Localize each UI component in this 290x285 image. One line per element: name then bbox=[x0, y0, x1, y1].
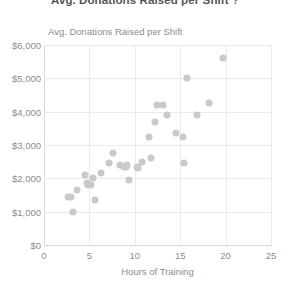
scatter-point[interactable] bbox=[126, 177, 133, 184]
y-axis-tick-label: $1,000 bbox=[0, 206, 41, 217]
x-axis-tick-label: 15 bbox=[175, 250, 186, 261]
scatter-point[interactable] bbox=[98, 170, 105, 177]
gridline-vertical bbox=[271, 45, 272, 245]
scatter-point[interactable] bbox=[106, 160, 113, 167]
chart-container: Avg. Donations Raised per Shift ? Avg. D… bbox=[0, 0, 290, 285]
x-axis-tick-label: 20 bbox=[220, 250, 231, 261]
x-axis-label: Hours of Training bbox=[44, 266, 271, 277]
gridline-horizontal bbox=[44, 112, 271, 113]
scatter-point[interactable] bbox=[88, 182, 95, 189]
y-axis-tick-label: $0 bbox=[0, 240, 41, 251]
x-axis-tick-label: 0 bbox=[41, 250, 46, 261]
plot-area bbox=[44, 45, 271, 245]
y-axis-tick-label: $4,000 bbox=[0, 106, 41, 117]
gridline-horizontal bbox=[44, 145, 271, 146]
scatter-point[interactable] bbox=[68, 193, 75, 200]
scatter-point[interactable] bbox=[123, 162, 130, 169]
scatter-point[interactable] bbox=[73, 187, 80, 194]
y-axis-tick-label: $5,000 bbox=[0, 73, 41, 84]
scatter-point[interactable] bbox=[148, 155, 155, 162]
gridline-vertical bbox=[226, 45, 227, 245]
x-axis-tick-label: 25 bbox=[266, 250, 277, 261]
scatter-point[interactable] bbox=[179, 133, 186, 140]
scatter-point[interactable] bbox=[193, 112, 200, 119]
scatter-point[interactable] bbox=[151, 118, 158, 125]
gridline-horizontal bbox=[44, 212, 271, 213]
scatter-point[interactable] bbox=[219, 55, 226, 62]
y-axis-tick-label: $6,000 bbox=[0, 40, 41, 51]
scatter-point[interactable] bbox=[164, 112, 171, 119]
scatter-point[interactable] bbox=[81, 172, 88, 179]
scatter-point[interactable] bbox=[91, 197, 98, 204]
y-axis-tick-label: $2,000 bbox=[0, 173, 41, 184]
scatter-point[interactable] bbox=[172, 130, 179, 137]
gridline-vertical bbox=[89, 45, 90, 245]
y-axis-tick-label: $3,000 bbox=[0, 140, 41, 151]
gridline-vertical bbox=[180, 45, 181, 245]
scatter-point[interactable] bbox=[180, 160, 187, 167]
scatter-point[interactable] bbox=[146, 133, 153, 140]
scatter-point[interactable] bbox=[90, 175, 97, 182]
scatter-point[interactable] bbox=[139, 158, 146, 165]
gridline-horizontal bbox=[44, 78, 271, 79]
scatter-point[interactable] bbox=[70, 208, 77, 215]
x-axis-line bbox=[44, 245, 272, 246]
scatter-point[interactable] bbox=[159, 102, 166, 109]
scatter-point[interactable] bbox=[206, 100, 213, 107]
y-axis-tick-labels: $0$1,000$2,000$3,000$4,000$5,000$6,000 bbox=[0, 0, 41, 285]
gridline-horizontal bbox=[44, 178, 271, 179]
x-axis-tick-label: 5 bbox=[87, 250, 92, 261]
page-title: Avg. Donations Raised per Shift ? bbox=[0, 0, 290, 6]
scatter-point[interactable] bbox=[135, 165, 142, 172]
gridline-horizontal bbox=[44, 45, 271, 46]
x-axis-tick-label: 10 bbox=[130, 250, 141, 261]
y-axis-inline-label: Avg. Donations Raised per Shift bbox=[48, 26, 182, 37]
chart-title-text: Avg. Donations Raised per Shift bbox=[51, 0, 229, 6]
gridline-vertical bbox=[135, 45, 136, 245]
scatter-point[interactable] bbox=[183, 75, 190, 82]
help-icon[interactable]: ? bbox=[232, 0, 239, 6]
scatter-point[interactable] bbox=[110, 150, 117, 157]
